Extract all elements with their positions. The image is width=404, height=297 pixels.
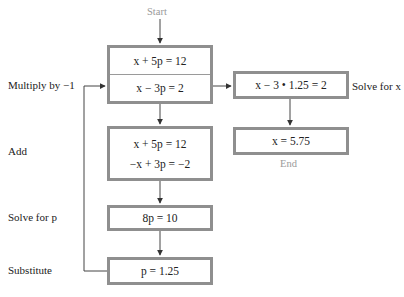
result-box: x = 5.75 (233, 127, 349, 155)
step-label-add: Add (8, 145, 27, 157)
add-equations-box: x + 5p = 12 −x + 3p = −2 (107, 126, 213, 181)
equation-line: x − 3p = 2 (136, 81, 183, 95)
step-label-solve-x: Solve for x (352, 80, 401, 92)
equation-line: x = 5.75 (272, 134, 310, 148)
back-substitution-box: x − 3 • 1.25 = 2 (233, 71, 349, 99)
step-label-multiply: Multiply by −1 (8, 79, 75, 91)
equation-line: p = 1.25 (141, 264, 179, 278)
equation-line: x − 3 • 1.25 = 2 (255, 78, 327, 92)
step-label-solve-p: Solve for p (8, 211, 57, 223)
system-equations-box: x + 5p = 12 x − 3p = 2 (107, 45, 213, 104)
substitute-box: p = 1.25 (107, 257, 213, 285)
equation-line: x + 5p = 12 (133, 54, 186, 68)
equation-line: −x + 3p = −2 (130, 157, 190, 171)
start-label: Start (147, 6, 167, 17)
step-label-substitute: Substitute (8, 264, 52, 276)
top-margin (0, 0, 404, 5)
solve-p-box: 8p = 10 (107, 205, 213, 231)
end-label: End (280, 158, 297, 169)
equation-line: 8p = 10 (142, 211, 177, 225)
equation-line: x + 5p = 12 (133, 137, 186, 151)
